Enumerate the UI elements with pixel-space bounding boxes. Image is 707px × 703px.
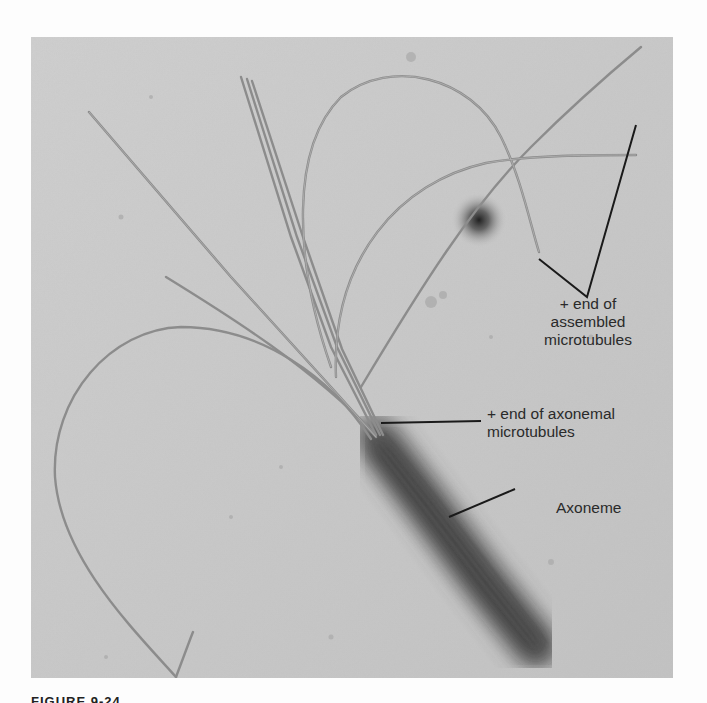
label-assembled-plus-end: + end of assembled microtubules [523, 295, 653, 349]
label-axoneme: Axoneme [556, 499, 621, 517]
micrograph-drawing [31, 37, 673, 678]
electron-micrograph [31, 37, 673, 678]
figure-caption: FIGURE 9-24 [31, 694, 121, 703]
label-axonemal-plus-end: + end of axonemal microtubules [487, 405, 615, 441]
